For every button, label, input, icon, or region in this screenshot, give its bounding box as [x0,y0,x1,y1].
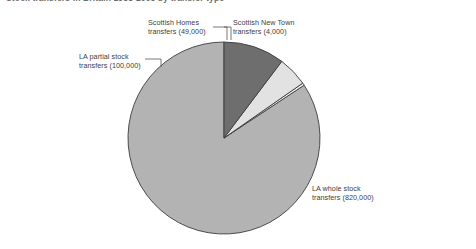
slice-label-scottish-newtown-line2: transfers (4,000) [233,27,294,36]
slice-label-scottish-homes-line1: Scottish Homes [148,18,206,27]
leader-line-scottish-newtown [224,27,231,40]
leader-line-la-partial [145,59,161,67]
pie-chart [0,0,476,249]
slice-label-scottish-homes: Scottish Homes transfers (49,000) [148,18,206,36]
slice-label-scottish-homes-line2: transfers (49,000) [148,27,206,36]
slice-label-scottish-newtown-line1: Scottish New Town [233,18,294,27]
pie-chart-svg [0,0,476,249]
leader-line-scottish-homes [213,27,227,40]
slice-label-la-whole: LA whole stock transfers (820,000) [312,184,374,202]
slice-label-la-whole-line1: LA whole stock [312,184,374,193]
pie-slice-group [128,42,320,234]
chart-page: Stock transfers in Britain 1988-2003 by … [0,0,476,249]
slice-label-la-partial-line2: transfers (100,000) [79,61,141,70]
slice-label-la-partial: LA partial stock transfers (100,000) [79,52,141,70]
slice-label-scottish-newtown: Scottish New Town transfers (4,000) [233,18,294,36]
slice-label-la-whole-line2: transfers (820,000) [312,193,374,202]
slice-label-la-partial-line1: LA partial stock [79,52,141,61]
